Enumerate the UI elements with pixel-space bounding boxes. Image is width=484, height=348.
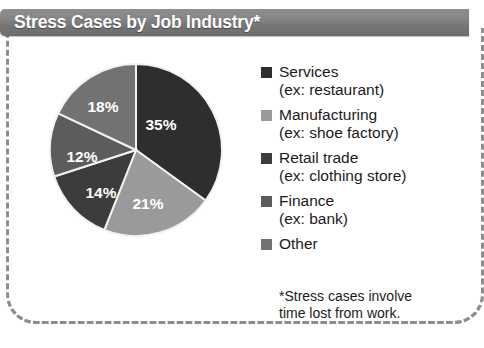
footnote-line-1: *Stress cases involve [279, 288, 469, 305]
legend-item-label: Services [279, 63, 384, 81]
legend-item-sublabel: (ex: clothing store) [279, 167, 407, 185]
pie-chart-svg: 35%21%14%12%18% [48, 62, 224, 238]
pie-slice-label: 14% [85, 184, 116, 201]
legend-item-services[interactable]: Services (ex: restaurant) [261, 63, 466, 99]
legend-item-label: Retail trade [279, 149, 407, 167]
legend-swatch-icon [261, 153, 272, 164]
legend-item-label: Manufacturing [279, 106, 399, 124]
title-banner: Stress Cases by Job Industry* [0, 9, 469, 36]
footnote: *Stress cases involve time lost from wor… [279, 288, 469, 321]
legend-swatch-icon [261, 110, 272, 121]
pie-slice-label: 35% [145, 116, 176, 133]
legend-swatch-icon [261, 239, 272, 250]
legend: Services (ex: restaurant) Manufacturing … [261, 63, 466, 260]
legend-item-other[interactable]: Other [261, 235, 466, 253]
pie-slice-label: 18% [87, 98, 118, 115]
legend-item-retail-trade[interactable]: Retail trade (ex: clothing store) [261, 149, 466, 185]
legend-swatch-icon [261, 67, 272, 78]
page-title: Stress Cases by Job Industry* [14, 12, 260, 33]
legend-item-label: Other [279, 235, 318, 253]
legend-item-label: Finance [279, 192, 348, 210]
legend-item-finance[interactable]: Finance (ex: bank) [261, 192, 466, 228]
footnote-line-2: time lost from work. [279, 305, 469, 322]
legend-swatch-icon [261, 196, 272, 207]
legend-item-sublabel: (ex: bank) [279, 210, 348, 228]
pie-slice-label: 12% [66, 148, 97, 165]
pie-slice-label: 21% [132, 195, 163, 212]
legend-item-sublabel: (ex: restaurant) [279, 81, 384, 99]
legend-item-manufacturing[interactable]: Manufacturing (ex: shoe factory) [261, 106, 466, 142]
legend-item-sublabel: (ex: shoe factory) [279, 124, 399, 142]
pie-chart: 35%21%14%12%18% [48, 62, 224, 238]
